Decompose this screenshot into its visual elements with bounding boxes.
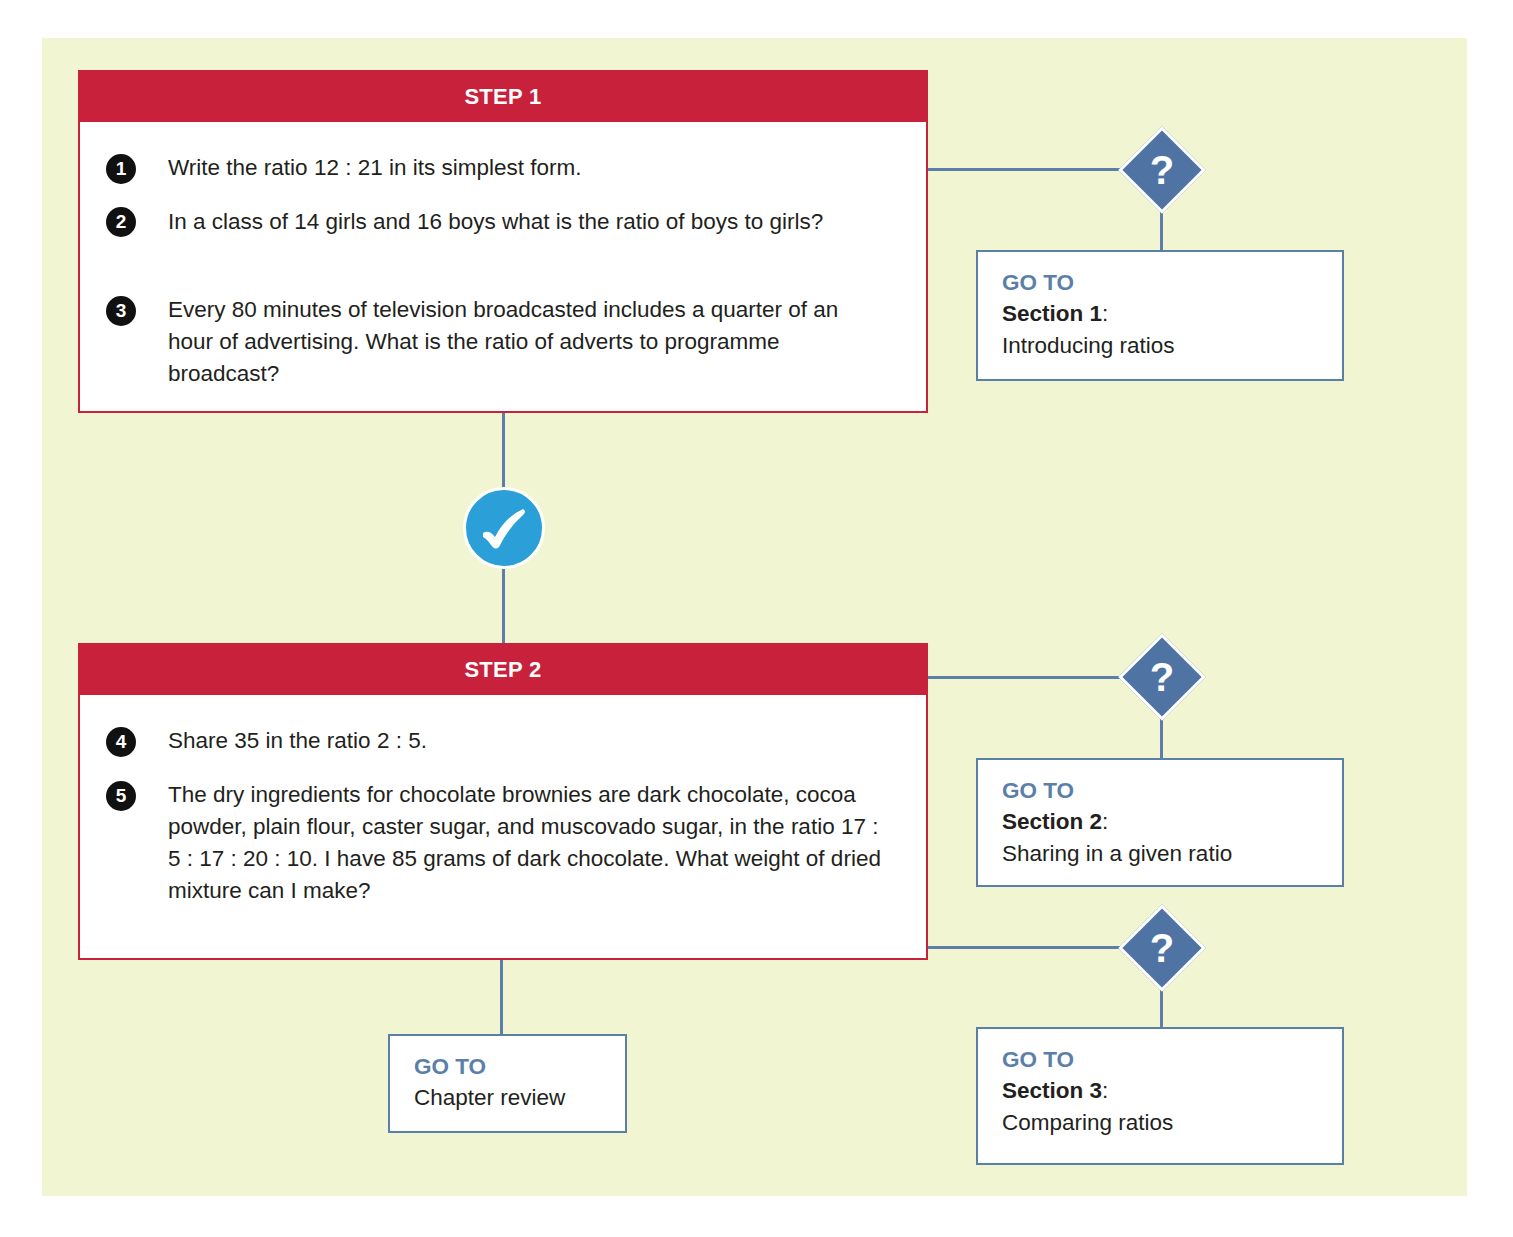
goto-section-3[interactable]: GO TO Section 3: Comparing ratios: [976, 1027, 1344, 1165]
check-mark-icon: [479, 505, 529, 551]
connector-step2-to-review: [500, 959, 503, 1035]
step-1-header: STEP 1: [80, 72, 926, 122]
step-2-header: STEP 2: [80, 645, 926, 695]
connector-q1-to-goto1: [1160, 210, 1163, 250]
question-4-text: Share 35 in the ratio 2 : 5.: [168, 725, 888, 757]
decision-diamond-2: ?: [1117, 632, 1207, 722]
goto-label: GO TO: [1002, 1045, 1318, 1075]
question-number-badge: 3: [106, 296, 136, 326]
step-1-box: STEP 1 1 Write the ratio 12 : 21 in its …: [78, 70, 928, 413]
section-separator: :: [1102, 809, 1108, 834]
question-number-badge: 1: [106, 154, 136, 184]
decision-diamond-3: ?: [1117, 903, 1207, 993]
section-title: Sharing in a given ratio: [1002, 838, 1318, 870]
section-separator: :: [1102, 1078, 1108, 1103]
clipped-page-heading: [0, 0, 1000, 8]
question-2-text: In a class of 14 girls and 16 boys what …: [168, 206, 888, 238]
connector-step2-to-q2: [928, 676, 1126, 679]
connector-step1-to-q1: [928, 168, 1126, 171]
section-name: Section 1: [1002, 301, 1102, 326]
question-3-text: Every 80 minutes of television broadcast…: [168, 294, 888, 390]
section-separator: :: [1102, 301, 1108, 326]
goto-section-1[interactable]: GO TO Section 1: Introducing ratios: [976, 250, 1344, 381]
section-title: Comparing ratios: [1002, 1107, 1318, 1139]
section-name: Section 3: [1002, 1078, 1102, 1103]
connector-check-to-step2: [502, 566, 505, 644]
question-number-badge: 5: [106, 781, 136, 811]
question-mark-icon: ?: [1117, 632, 1207, 722]
connector-q2-to-goto2: [1160, 716, 1163, 759]
connector-step2-to-q3: [928, 946, 1126, 949]
decision-diamond-1: ?: [1117, 125, 1207, 215]
goto-chapter-review[interactable]: GO TO Chapter review: [388, 1034, 627, 1133]
chapter-review-title: Chapter review: [414, 1082, 601, 1114]
connector-q3-to-goto3: [1160, 990, 1163, 1028]
question-mark-icon: ?: [1117, 903, 1207, 993]
question-number-badge: 2: [106, 207, 136, 237]
connector-step1-to-check: [502, 412, 505, 490]
question-1-text: Write the ratio 12 : 21 in its simplest …: [168, 152, 888, 184]
step-2-box: STEP 2 4 Share 35 in the ratio 2 : 5. 5 …: [78, 643, 928, 960]
goto-label: GO TO: [1002, 776, 1318, 806]
question-5-text: The dry ingredients for chocolate browni…: [168, 779, 883, 907]
check-icon: [463, 487, 545, 569]
section-name: Section 2: [1002, 809, 1102, 834]
question-number-badge: 4: [106, 727, 136, 757]
goto-section-2[interactable]: GO TO Section 2: Sharing in a given rati…: [976, 758, 1344, 887]
goto-label: GO TO: [414, 1052, 601, 1082]
section-title: Introducing ratios: [1002, 330, 1318, 362]
goto-label: GO TO: [1002, 268, 1318, 298]
question-mark-icon: ?: [1117, 125, 1207, 215]
